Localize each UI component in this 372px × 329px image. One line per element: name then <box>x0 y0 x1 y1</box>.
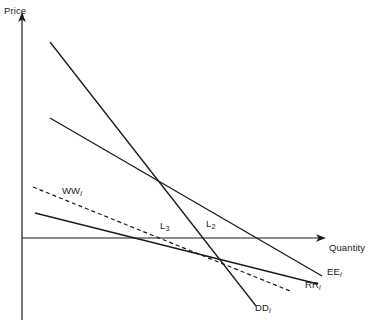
curve-l2 <box>50 118 322 276</box>
curve-label-dd-sub: i <box>269 306 271 315</box>
curve-label-dd: DDi <box>255 303 271 313</box>
y-axis-group <box>18 12 26 320</box>
curve-label-l3: L3 <box>160 221 170 231</box>
curve-label-dd-base: DD <box>255 302 269 313</box>
curve-label-ww-sub: i <box>80 189 82 198</box>
y-axis-label: Price <box>4 6 26 16</box>
curve-label-ee-sub: i <box>340 270 342 279</box>
curve-label-rr: RRi <box>305 280 321 290</box>
curve-ww <box>33 187 290 291</box>
curve-label-ww-base: WW <box>62 185 80 196</box>
curve-label-ee: EEi <box>327 267 342 277</box>
curve-label-ee-base: EE <box>327 266 340 277</box>
curve-label-ww: WWi <box>62 186 82 196</box>
curve-label-l2: L2 <box>206 219 216 229</box>
x-axis-group <box>22 234 326 242</box>
curve-label-l3-sub: 3 <box>165 224 169 233</box>
curve-label-l2-sub: 2 <box>211 222 215 231</box>
economics-diagram: Price Quantity WWi L3 L2 EEi RRi DDi <box>0 0 372 329</box>
x-axis-label: Quantity <box>329 243 365 253</box>
curve-label-rr-sub: i <box>319 283 321 292</box>
curve-label-rr-base: RR <box>305 279 319 290</box>
curve-dd <box>50 42 256 306</box>
